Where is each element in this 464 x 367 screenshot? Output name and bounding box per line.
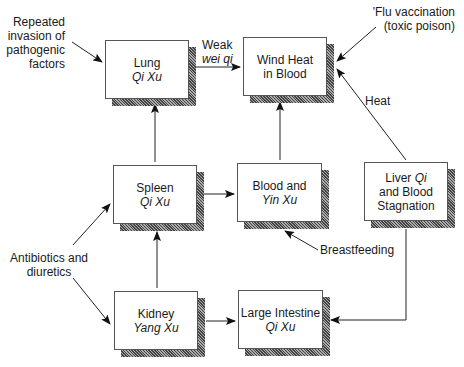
label-heat: Heat bbox=[365, 94, 390, 108]
node-subtitle: in Blood bbox=[263, 67, 306, 81]
node-subtitle: Yang Xu bbox=[133, 321, 178, 335]
node-title: Lung bbox=[134, 56, 161, 70]
label-flu-vaccination: 'Flu vaccination (toxic poison) bbox=[340, 5, 455, 33]
node-line2: and Blood bbox=[379, 185, 433, 199]
label-line: pathogenic bbox=[4, 43, 65, 57]
node-lung-qi-xu: Lung Qi Xu bbox=[105, 40, 189, 99]
node-subtitle: Qi Xu bbox=[265, 320, 295, 334]
node-liver-qi-blood-stagnation: Liver Qi and Blood Stagnation bbox=[364, 162, 448, 221]
node-wind-heat-in-blood: Wind Heat in Blood bbox=[243, 37, 327, 96]
label-line: (toxic poison) bbox=[340, 19, 455, 33]
node-large-intestine-qi-xu: Large Intestine Qi Xu bbox=[238, 290, 323, 349]
node-title-text: Liver bbox=[385, 171, 414, 185]
node-spleen-qi-xu: Spleen Qi Xu bbox=[113, 165, 197, 224]
node-subtitle: Qi Xu bbox=[140, 195, 170, 209]
label-line: 'Flu vaccination bbox=[340, 5, 455, 19]
label-line: diuretics bbox=[6, 265, 92, 279]
label-line: invasion of bbox=[4, 29, 65, 43]
label-breastfeeding: Breastfeeding bbox=[320, 243, 394, 257]
label-weak: Weak bbox=[202, 38, 233, 52]
node-line3: Stagnation bbox=[377, 199, 434, 213]
node-title: Kidney bbox=[138, 307, 175, 321]
label-line: Repeated bbox=[4, 15, 65, 29]
node-blood-and-yin-xu: Blood and Yin Xu bbox=[237, 163, 322, 222]
label-wei-qi: wei qi bbox=[202, 52, 233, 66]
node-title: Liver Qi bbox=[385, 171, 426, 185]
node-title: Wind Heat bbox=[257, 53, 313, 67]
node-subtitle: Yin Xu bbox=[262, 193, 297, 207]
node-kidney-yang-xu: Kidney Yang Xu bbox=[114, 291, 198, 350]
label-line: Antibiotics and bbox=[6, 251, 92, 265]
label-line: factors bbox=[4, 57, 65, 71]
node-title: Spleen bbox=[136, 181, 173, 195]
node-title-italic: Qi bbox=[415, 171, 427, 185]
node-title: Blood and bbox=[252, 179, 306, 193]
node-subtitle: Qi Xu bbox=[132, 70, 162, 84]
node-title: Large Intestine bbox=[241, 306, 320, 320]
label-pathogenic-factors: Repeated invasion of pathogenic factors bbox=[4, 15, 65, 71]
label-antibiotics-diuretics: Antibiotics and diuretics bbox=[6, 251, 92, 279]
label-weak-wei-qi: Weak wei qi bbox=[202, 38, 233, 66]
